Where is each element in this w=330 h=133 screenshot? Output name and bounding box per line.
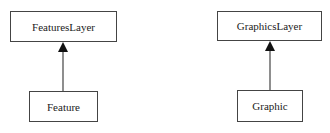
node-feature: Feature: [29, 91, 98, 122]
arrowhead-icon: [265, 41, 275, 51]
edge-feature-to-featureslayer: [58, 42, 68, 91]
edge-graphic-to-graphicslayer: [265, 41, 275, 90]
node-graphic: Graphic: [237, 90, 303, 122]
node-label: GraphicsLayer: [237, 20, 302, 32]
node-graphics-layer: GraphicsLayer: [217, 11, 322, 41]
node-label: Graphic: [252, 100, 287, 112]
node-label: Feature: [47, 101, 80, 113]
node-features-layer: FeaturesLayer: [10, 11, 117, 42]
arrowhead-icon: [58, 42, 68, 52]
node-label: FeaturesLayer: [32, 21, 95, 33]
